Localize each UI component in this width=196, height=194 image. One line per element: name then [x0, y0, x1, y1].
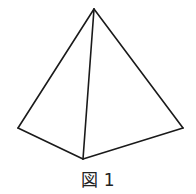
edge-apex-bottom [83, 9, 94, 159]
figure-caption: 図 1 [0, 170, 196, 190]
edge-left-bottom [18, 128, 83, 159]
pyramid-diagram [0, 0, 196, 194]
edge-bottom-right [83, 128, 183, 159]
edge-apex-right [94, 9, 183, 128]
edge-apex-left [18, 9, 94, 128]
pyramid-edges [18, 9, 183, 159]
